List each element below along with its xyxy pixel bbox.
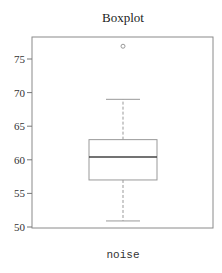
category-label-noise: noise <box>106 249 139 261</box>
chart-title: Boxplot <box>102 10 144 25</box>
box-group <box>89 44 157 221</box>
y-tick-label: 50 <box>14 221 26 233</box>
boxplot-chart: Boxplot 505560657075 noise <box>0 0 222 273</box>
y-tick-label: 65 <box>14 120 26 132</box>
outlier-point <box>121 44 125 48</box>
iqr-box <box>89 140 157 180</box>
y-tick-label: 60 <box>14 154 26 166</box>
y-axis: 505560657075 <box>14 53 32 233</box>
y-tick-label: 55 <box>14 187 26 199</box>
y-tick-label: 75 <box>14 53 26 65</box>
y-tick-label: 70 <box>14 87 26 99</box>
